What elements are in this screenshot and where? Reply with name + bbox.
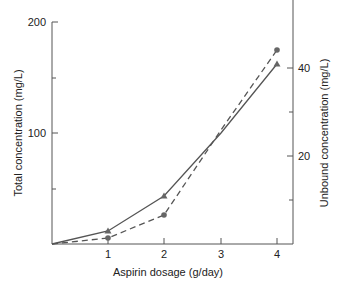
left-tick-label-100: 100 bbox=[28, 127, 46, 139]
circle-marker bbox=[161, 212, 167, 218]
x-axis-title: Aspirin dosage (g/day) bbox=[113, 266, 223, 278]
triangle-marker bbox=[105, 228, 112, 234]
chart: 200 100 40 20 1 2 3 4 Aspirin dosage (g/… bbox=[0, 0, 345, 285]
circle-marker bbox=[274, 47, 280, 53]
y2-axis-title: Unbound concentration (mg/L) bbox=[318, 59, 330, 208]
x-tick-label-1: 1 bbox=[105, 248, 111, 260]
x-tick-label-3: 3 bbox=[218, 248, 224, 260]
circle-marker bbox=[105, 235, 111, 241]
left-tick-label-200: 200 bbox=[28, 16, 46, 28]
x-tick-label-2: 2 bbox=[161, 248, 167, 260]
triangle-marker bbox=[274, 61, 281, 67]
x-tick-label-4: 4 bbox=[274, 248, 280, 260]
right-tick-label-40: 40 bbox=[298, 62, 310, 74]
right-tick-label-20: 20 bbox=[298, 150, 310, 162]
y-axis-title: Total concentration (mg/L) bbox=[12, 69, 24, 196]
